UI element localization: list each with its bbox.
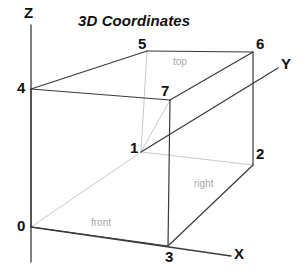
vertex-label-4: 4 <box>17 80 25 95</box>
vertex-label-5: 5 <box>138 36 146 51</box>
edge-4-7 <box>31 89 170 100</box>
edge-1-2 <box>141 152 253 165</box>
edge-4-5 <box>31 51 147 89</box>
y-axis-line <box>141 68 278 152</box>
z-axis-label: Z <box>24 5 33 20</box>
edge-5-6 <box>147 51 253 52</box>
edge-0-1 <box>31 152 141 227</box>
face-label-right: right <box>194 179 213 189</box>
vertex-label-0: 0 <box>17 218 25 233</box>
vertex-label-6: 6 <box>256 36 264 51</box>
vertex-label-1: 1 <box>130 140 138 155</box>
vertex-label-7: 7 <box>161 83 169 98</box>
edge-3-7 <box>168 100 170 246</box>
x-axis-line <box>31 227 231 256</box>
edge-1-7 <box>141 100 170 152</box>
vertex-label-2: 2 <box>256 146 264 161</box>
face-label-top: top <box>173 57 187 67</box>
vertex-label-3: 3 <box>165 249 173 264</box>
edge-1-5 <box>141 51 147 152</box>
x-axis-label: X <box>234 246 244 261</box>
hidden-edge-group <box>31 51 253 227</box>
solid-edge-group <box>31 51 253 246</box>
y-axis-label: Y <box>281 56 291 71</box>
3d-coordinates-diagram: 3D Coordinates 01234567 ZXY toprightfron… <box>0 0 308 279</box>
axis-line-group <box>31 25 278 262</box>
page-title: 3D Coordinates <box>78 13 190 28</box>
face-label-front: front <box>91 218 111 228</box>
